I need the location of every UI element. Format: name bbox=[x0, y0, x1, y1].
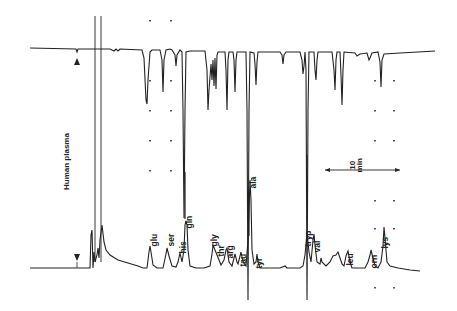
peak-label-orn: orn bbox=[370, 255, 379, 269]
peak-label-tau: tau bbox=[239, 254, 248, 267]
peak-label-lys: lys bbox=[381, 237, 390, 249]
sample-label: Human plasma bbox=[62, 133, 71, 190]
peak-label-ser: ser bbox=[167, 234, 176, 247]
peak-label-arg: arg bbox=[226, 245, 235, 258]
peak-label-his: his bbox=[179, 241, 188, 253]
peak-label-gln: gln bbox=[185, 216, 194, 229]
arrow-down-icon bbox=[74, 254, 80, 261]
peak-label-glu: glu bbox=[150, 234, 159, 247]
peak-label-val: val bbox=[313, 241, 322, 253]
arrow-up-icon bbox=[74, 58, 80, 65]
peak-label-tyr: tyr bbox=[255, 258, 264, 269]
chromatogram-figure: Human plasma 10 min glu ser his gln gly … bbox=[0, 0, 457, 311]
peak-label-leu: leu bbox=[346, 253, 355, 265]
scale-unit: min bbox=[355, 158, 364, 172]
peak-label-ala: ala bbox=[249, 177, 258, 189]
scale-bar-label: 10 min bbox=[349, 158, 363, 172]
